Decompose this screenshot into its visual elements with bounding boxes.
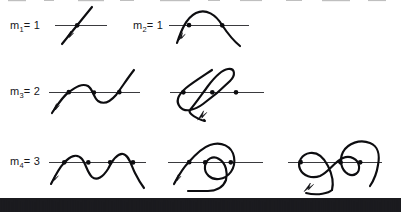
panel-m4-b [168,144,263,191]
label-m1: m1= 1 [10,19,40,34]
intersection-dot [117,90,122,95]
intersection-dot [181,90,186,95]
intersection-dot [228,160,233,165]
figure-root: m1= 1 m2= 1 [0,0,401,212]
label-m2: m2= 1 [133,19,163,34]
scan-specks-top [8,0,386,1]
intersection-dot [298,160,303,165]
intersection-dot [210,90,215,95]
label-m4: m4= 3 [10,155,40,170]
label-m1-base: m [10,19,19,31]
label-m2-base: m [133,19,142,31]
curve-m2a [177,11,240,46]
direction-arrow-m4c [304,183,314,192]
scanner-artifact-strip [0,198,401,212]
label-m4-eq: = 3 [24,155,40,167]
curve-m4c-tail [306,190,332,194]
label-m2-eq: = 1 [147,19,163,31]
direction-arrow-m4a [51,174,58,183]
panel-m3-b [170,69,264,121]
label-m3-eq: = 2 [24,85,40,97]
intersection-dot [338,160,343,165]
intersection-dot [86,160,91,165]
curve-m4c [299,141,379,190]
label-m4-base: m [10,155,19,167]
panel-m1-a [55,7,107,44]
curve-m4a [51,154,144,188]
row-m4: m4= 3 [10,141,382,194]
intersection-dot [131,160,136,165]
label-m3-base: m [10,85,19,97]
figure-canvas: m1= 1 m2= 1 [0,0,401,212]
panel-m3-a [49,70,140,113]
intersection-dot [234,90,239,95]
intersection-dot [108,160,113,165]
panel-m2-a: m2= 1 [133,11,249,46]
direction-arrow-m3b [198,111,207,120]
intersection-dot [187,23,192,28]
intersection-dot [358,160,363,165]
intersection-dot [75,23,80,28]
intersection-dot [220,23,225,28]
intersection-dot [187,160,192,165]
intersection-dot [62,160,67,165]
row-m1: m1= 1 m2= 1 [10,7,249,46]
intersection-dot [66,90,71,95]
intersection-dot [203,160,208,165]
panel-m4-a [49,154,146,188]
label-m3: m3= 2 [10,85,40,100]
label-m1-eq: = 1 [24,19,40,31]
curve-m4b [174,144,234,191]
panel-m4-c [288,141,382,194]
intersection-dot [92,90,97,95]
row-m3: m3= 2 [10,69,264,121]
